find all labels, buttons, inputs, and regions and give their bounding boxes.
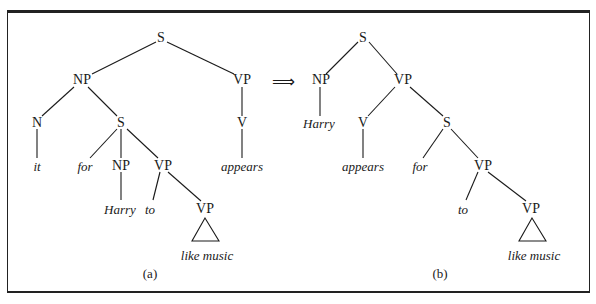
node-a-s-root: S [157,31,165,45]
leaf-a-to: to [145,203,155,216]
leaf-b-harry: Harry [303,117,335,130]
node-b-vp-embedded: VP [474,159,492,173]
node-b-np: NP [312,73,330,87]
node-b-vp: VP [394,73,412,87]
transformation-arrow-icon: ⟹ [272,74,295,90]
leaf-a-it: it [33,160,40,173]
node-b-v: V [358,116,368,130]
leaf-a-like-music: like music [181,249,233,262]
tree-edges [0,0,596,304]
node-a-np: NP [73,73,91,87]
node-a-vp-embedded: VP [154,159,172,173]
leaf-b-appears: appears [342,160,384,173]
leaf-b-to: to [458,203,468,216]
node-a-vp-low: VP [196,202,214,216]
leaf-a-appears: appears [221,160,263,173]
node-a-n: N [32,116,42,130]
node-b-s-embedded: S [443,116,451,130]
leaf-b-like-music: like music [508,249,560,262]
node-b-s-root: S [359,31,367,45]
leaf-b-for: for [412,160,427,173]
node-a-np-embedded: NP [112,159,130,173]
leaf-a-for: for [77,160,92,173]
node-b-vp-low: VP [522,202,540,216]
leaf-a-harry: Harry [104,203,136,216]
caption-a: (a) [143,267,157,280]
node-a-s-embedded: S [117,116,125,130]
caption-b: (b) [432,267,447,280]
node-a-v: V [237,116,247,130]
node-a-vp: VP [233,73,251,87]
